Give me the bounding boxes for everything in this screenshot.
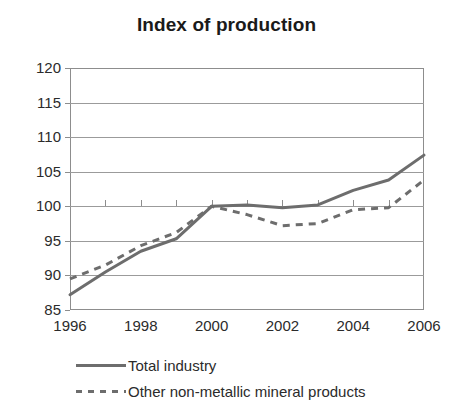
x-tick-label: 2004: [323, 318, 383, 334]
y-tick-label: 95: [21, 233, 61, 248]
x-tick-label: 2000: [182, 318, 242, 334]
y-tick-label: 110: [21, 129, 61, 144]
y-tick-label: 100: [21, 198, 61, 213]
series-line-total-industry: [70, 155, 424, 295]
plot-area: [70, 68, 424, 310]
y-tick-label: 115: [21, 95, 61, 110]
y-tick-label: 120: [21, 60, 61, 75]
chart-figure: Index of production 85909510010511011512…: [0, 0, 453, 419]
x-tick-label: 2006: [394, 318, 453, 334]
chart-legend: Total industry Other non-metallic minera…: [74, 352, 444, 404]
legend-label-total-industry: Total industry: [128, 357, 216, 374]
series-line-other-non-metallic-mineral-products: [70, 180, 424, 279]
y-axis-tick: [65, 310, 70, 311]
legend-swatch-dashed-line-icon: [74, 385, 128, 397]
series-lines: [70, 68, 424, 310]
x-tick-label: 2002: [252, 318, 312, 334]
legend-swatch-solid-line-icon: [74, 359, 128, 371]
x-tick-label: 1996: [40, 318, 100, 334]
legend-item-other-non-metallic-mineral-products: Other non-metallic mineral products: [74, 378, 444, 404]
chart-title: Index of production: [0, 14, 453, 36]
y-tick-label: 105: [21, 164, 61, 179]
legend-label-other-non-metallic-mineral-products: Other non-metallic mineral products: [128, 383, 366, 400]
y-tick-label: 90: [21, 267, 61, 282]
legend-item-total-industry: Total industry: [74, 352, 444, 378]
x-tick-label: 1998: [111, 318, 171, 334]
y-tick-label: 85: [21, 302, 61, 317]
